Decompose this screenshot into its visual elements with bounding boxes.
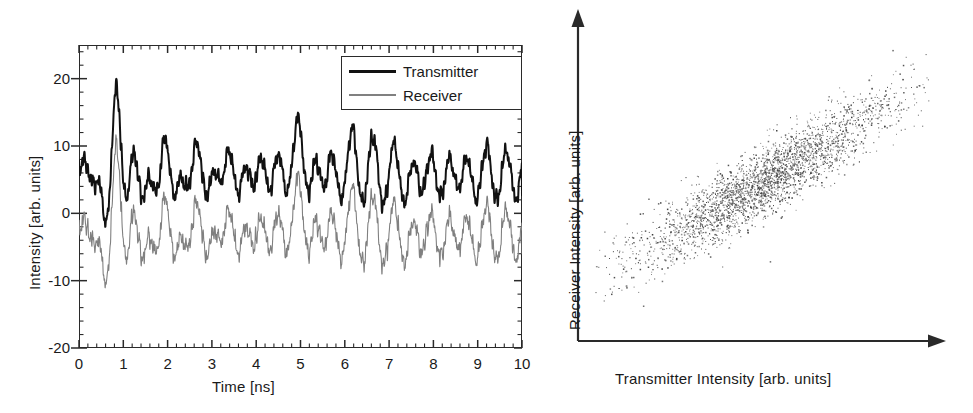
x-axis-arrow-icon [928,335,946,348]
x-tick-label: 5 [281,355,321,372]
scatter-point-cloud [596,50,930,307]
legend-line-transmitter [349,70,396,73]
legend-item-transmitter: Transmitter [349,61,521,82]
x-tick-label: 3 [192,355,232,372]
receiver-trace [79,135,522,288]
x-tick-label: 2 [148,355,188,372]
x-tick-label: 8 [413,355,453,372]
y-tick-label: 10 [0,137,70,154]
y-axis-arrow-icon [572,9,585,27]
x-tick-label: 10 [502,355,542,372]
correlation-panel: Transmitter Intensity [arb. units] Recei… [545,0,973,413]
y-tick-label: 20 [0,70,70,87]
correlation-svg [545,0,973,413]
legend-item-receiver: Receiver [349,85,521,106]
x-axis-label: Transmitter Intensity [arb. units] [615,370,831,387]
x-tick-label: 6 [325,355,365,372]
x-tick-label: 4 [236,355,276,372]
legend-label-receiver: Receiver [403,88,462,103]
correlation-axes [572,9,947,348]
x-tick-label: 7 [369,355,409,372]
x-tick-label: 1 [103,355,143,372]
time-series-panel: 20 10 0 -10 -20 012345678910 Time [ns] I… [0,0,545,413]
legend-label-transmitter: Transmitter [403,64,478,79]
x-tick-label: 9 [458,355,498,372]
figure-root: 20 10 0 -10 -20 012345678910 Time [ns] I… [0,0,973,413]
legend-line-receiver [349,94,396,96]
y-tick-label: -20 [0,339,70,356]
y-axis-label: Receiver Intensity [arb. units] [566,130,583,330]
y-axis-label: Intensity [arb. units] [26,156,43,290]
x-tick-label: 0 [59,355,99,372]
x-axis-label: Time [ns] [212,378,275,395]
legend: Transmitter Receiver [341,56,522,110]
